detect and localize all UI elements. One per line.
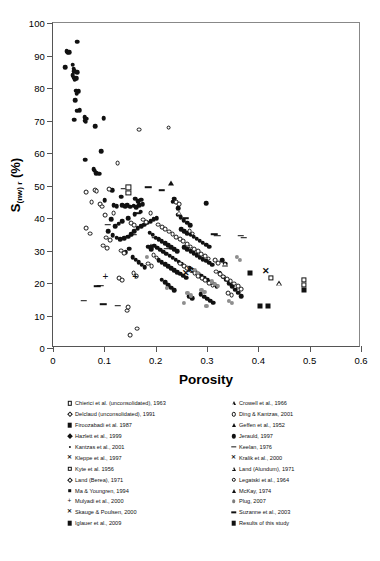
legend-symbol-plus: +	[64, 496, 75, 506]
data-point-dash	[100, 303, 107, 305]
x-axis-tick-label: 0.6	[354, 355, 367, 366]
legend-symbol-grey-circle	[228, 496, 239, 506]
data-point-open-circle	[154, 255, 159, 260]
data-point-filled-circle	[239, 294, 244, 299]
x-axis-tick	[104, 346, 105, 352]
data-point-open-circle	[126, 305, 131, 310]
data-point-filled-square	[302, 288, 307, 293]
data-point-filled-circle	[154, 216, 159, 221]
data-point-open-circle	[111, 210, 116, 215]
data-point-filled-circle	[72, 77, 77, 82]
data-point-filled-square	[258, 303, 263, 308]
y-axis-label-unit: (%)	[8, 158, 23, 182]
legend-item: Firoozabadi et al. 1987	[64, 420, 214, 431]
data-point-grey-circle	[202, 290, 206, 294]
y-axis-tick	[47, 88, 53, 89]
legend-item-label: Suzanne et al., 2003	[239, 509, 290, 515]
data-point-filled-circle	[172, 288, 177, 293]
legend-item: +Mulyadi et al., 2000	[64, 496, 214, 507]
legend-symbol-filled-square	[64, 420, 75, 430]
y-axis-tick-label: 90	[34, 50, 45, 61]
data-point-filled-square	[265, 304, 270, 309]
data-point-filled-circle	[141, 202, 146, 207]
y-axis-tick-label: 70	[34, 115, 45, 126]
data-point-dash	[214, 235, 221, 237]
legend-item: Jerauld, 1997	[228, 431, 380, 442]
data-point-open-circle	[89, 200, 94, 205]
data-point-grey-circle	[216, 284, 220, 288]
data-point-grey-circle	[182, 300, 186, 304]
legend-symbol-filled-triangle	[228, 420, 239, 430]
data-point-filled-circle	[99, 149, 104, 154]
legend-item-label: Kyte et al. 1956	[75, 466, 114, 472]
data-point-filled-circle	[63, 65, 68, 70]
data-point-open-circle	[83, 226, 88, 231]
y-axis-tick	[47, 153, 53, 154]
legend-item-label: Legatski et al., 1964	[239, 477, 289, 483]
legend-item: Geffen et al., 1952	[228, 420, 380, 431]
data-point-open-circle	[108, 238, 113, 243]
legend-item-label: Ma & Youngren, 1994	[75, 488, 129, 494]
data-point-filled-circle	[74, 91, 79, 96]
legend-symbol-open-triangle-2	[228, 464, 239, 474]
scatter-marker-layer: ✕✕✕++	[53, 23, 359, 346]
x-axis-tick	[258, 346, 259, 352]
legend-symbol-open-circle-bold	[228, 409, 239, 419]
data-point-open-circle	[119, 278, 124, 283]
x-axis-tick	[156, 346, 157, 352]
y-axis-tick-label: 60	[34, 148, 45, 159]
legend-symbol-dash	[228, 442, 239, 452]
x-axis-tick-label: 0.5	[303, 355, 316, 366]
data-point-filled-circle	[75, 70, 80, 75]
legend-symbol-x-bold-2: ✕	[228, 453, 239, 463]
legend-column-right: Crowell et al., 1966Ding & Kantzas, 2001…	[228, 398, 380, 529]
legend-item: Land (Berea), 1971	[64, 474, 214, 485]
data-point-filled-triangle	[168, 180, 174, 185]
data-point-filled-circle	[210, 263, 215, 268]
data-point-open-square	[269, 276, 274, 281]
data-point-dash	[114, 305, 121, 307]
data-point-filled-circle	[204, 201, 209, 206]
data-point-plus-mark: +	[132, 272, 138, 282]
legend-symbol-small-dot	[64, 442, 75, 452]
data-point-open-circle	[137, 127, 142, 132]
data-point-open-circle	[132, 223, 137, 228]
data-point-filled-triangle	[148, 243, 154, 248]
data-point-filled-circle	[207, 244, 212, 249]
data-point-x-mark: ✕	[182, 269, 190, 278]
y-axis-tick	[47, 316, 53, 317]
data-point-open-circle	[177, 202, 182, 207]
x-axis-tick	[207, 346, 208, 352]
legend: Chierici et al. (unconsolidated), 1963De…	[0, 398, 380, 548]
data-point-open-triangle	[176, 210, 182, 215]
data-point-open-triangle	[222, 261, 228, 266]
legend-item: Keelan, 1976	[228, 442, 380, 453]
y-axis-tick	[47, 56, 53, 57]
legend-symbol-filled-square-med	[64, 518, 75, 528]
legend-item: Crowell et al., 1966	[228, 398, 380, 409]
data-point-dash	[164, 248, 171, 250]
legend-symbol-open-triangle	[228, 398, 239, 408]
y-axis-tick-label: 0	[40, 343, 45, 354]
legend-item-label: Crowell et al., 1966	[239, 400, 287, 406]
data-point-open-circle	[148, 211, 153, 216]
y-axis-tick	[47, 186, 53, 187]
data-point-grey-circle	[230, 300, 234, 304]
legend-item: Hazlett et al., 1999	[64, 431, 214, 442]
legend-item-label: Plug, 2007	[239, 498, 266, 504]
legend-item-label: Kantzas et al., 2001	[75, 444, 124, 450]
data-point-filled-square	[247, 271, 252, 276]
y-axis-tick	[47, 121, 53, 122]
data-point-filled-circle	[103, 198, 108, 203]
legend-item-label: Kralik et al., 2000	[239, 455, 282, 461]
data-point-plus-mark: +	[102, 272, 108, 282]
y-axis-tick-label: 50	[34, 180, 45, 191]
data-point-open-circle	[229, 293, 234, 298]
data-point-filled-circle	[93, 124, 98, 129]
legend-symbol-open-square	[64, 398, 75, 408]
y-axis-label: S(nw) r (%)	[8, 158, 24, 212]
figure-root: ✕✕✕++ 010203040506070809010000.10.20.30.…	[0, 0, 380, 561]
legend-symbol-filled-diamond	[64, 431, 75, 441]
data-point-filled-circle	[72, 118, 77, 123]
legend-item-label: Keelan, 1976	[239, 444, 272, 450]
